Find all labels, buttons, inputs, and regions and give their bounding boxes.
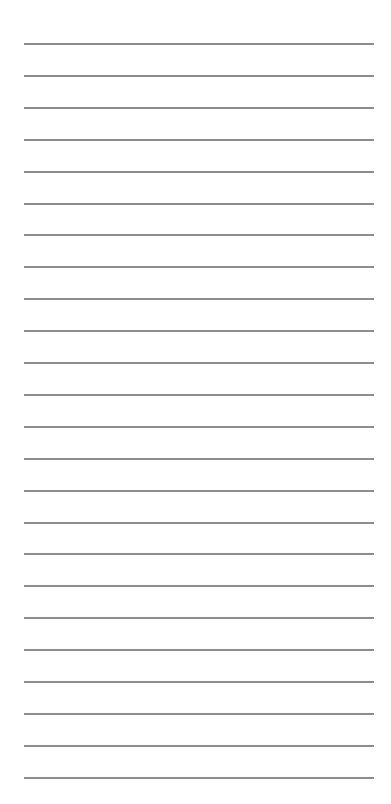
- ruled-line: [24, 171, 374, 173]
- ruled-line: [24, 553, 374, 555]
- ruled-line: [24, 330, 374, 332]
- ruled-line: [24, 522, 374, 524]
- ruled-line: [24, 298, 374, 300]
- ruled-line: [24, 139, 374, 141]
- ruled-line: [24, 681, 374, 683]
- ruled-line: [24, 585, 374, 587]
- ruled-line: [24, 75, 374, 77]
- ruled-line: [24, 777, 374, 779]
- ruled-line: [24, 107, 374, 109]
- ruled-line: [24, 203, 374, 205]
- ruled-line: [24, 426, 374, 428]
- ruled-line: [24, 713, 374, 715]
- ruled-line: [24, 617, 374, 619]
- ruled-line: [24, 649, 374, 651]
- ruled-line: [24, 394, 374, 396]
- ruled-line: [24, 266, 374, 268]
- ruled-line: [24, 43, 374, 45]
- ruled-line: [24, 458, 374, 460]
- ruled-line: [24, 234, 374, 236]
- lined-paper-page: [0, 0, 391, 804]
- ruled-line: [24, 490, 374, 492]
- ruled-line: [24, 362, 374, 364]
- ruled-line: [24, 745, 374, 747]
